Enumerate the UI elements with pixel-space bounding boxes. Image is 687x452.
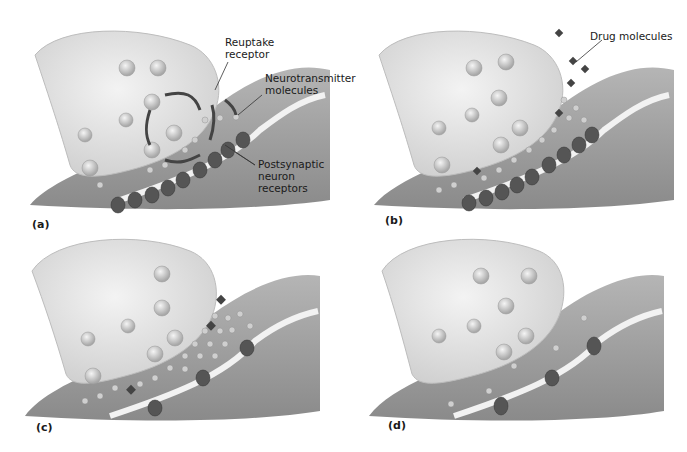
reuptake-receptor-label: Reuptake receptor (225, 36, 274, 60)
synapse-illustration-c (0, 226, 343, 452)
drug-molecules-label: Drug molecules (590, 30, 672, 42)
postsynaptic-receptors-label: Postsynaptic neuron receptors (258, 158, 324, 194)
panel-a: Reuptake receptor Neurotransmitter molec… (0, 0, 343, 226)
neurotransmitter-molecules-label: Neurotransmitter molecules (265, 72, 356, 96)
panel-c: (c) (0, 226, 343, 452)
panel-d: (d) (344, 226, 687, 452)
panel-letter-d: (d) (388, 419, 406, 432)
panel-letter-c: (c) (36, 421, 53, 434)
panel-b: Drug molecules (b) (344, 0, 687, 226)
